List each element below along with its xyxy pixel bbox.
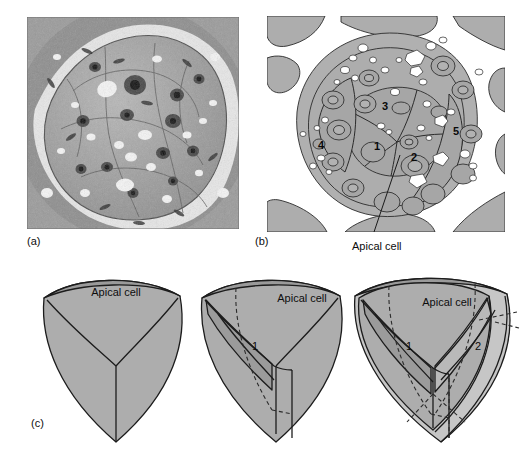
apical-cell-callout-label: Apical cell [352,240,402,252]
panel-c-shield-1: Apical cell [28,262,203,447]
panel-b-region-label-4: 4 [318,140,324,151]
figure-root: (a) [0,0,524,460]
panel-c-shield-2: Apical cell 1 [188,262,363,447]
panel-c-label: (c) [31,418,44,429]
shield-1-svg [28,262,203,447]
panel-b-diagram [267,16,505,232]
panel-c-shield-3: Apical cell 1 2 [345,262,523,447]
micrograph-svg [27,17,239,229]
panel-b-region-label-3: 3 [382,101,388,112]
panel-a-micrograph [27,17,239,229]
panel-b-region-label-1: 1 [374,141,380,152]
shield-3-svg [345,262,523,447]
panel-b-region-label-5: 5 [453,126,459,137]
panel-b-region-label-2: 2 [411,152,417,163]
panel-a-label: (a) [27,236,40,247]
schematic-svg [267,16,505,232]
panel-b-label: (b) [255,236,268,247]
shield-2-svg [188,262,363,447]
